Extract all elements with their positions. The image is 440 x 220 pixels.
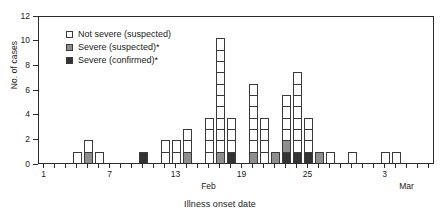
x-axis-title: Illness onset date [0, 199, 440, 209]
x-tick-label: 1 [31, 170, 57, 179]
legend-item-suspected: Severe (suspected)* [66, 41, 171, 54]
case-bar [205, 118, 214, 163]
x-axis-month-label: Feb [192, 182, 226, 191]
case-bar [271, 152, 280, 163]
x-tick-mark [43, 164, 44, 168]
case-cell-confirmed [304, 152, 313, 163]
case-cell-confirmed [282, 152, 291, 163]
x-tick-mark [351, 164, 352, 168]
x-tick-label: 7 [97, 170, 123, 179]
case-cell-suspected [216, 152, 225, 163]
case-bar [161, 140, 170, 163]
x-tick-mark [318, 164, 319, 168]
case-bar [326, 152, 335, 163]
case-cell-notsevere [161, 152, 170, 163]
y-tick-label: 2 [8, 135, 30, 144]
case-bar [392, 152, 401, 163]
x-tick-mark [417, 164, 418, 168]
x-tick-mark [164, 164, 165, 168]
case-bar [216, 38, 225, 163]
case-bar [315, 152, 324, 163]
case-cell-notsevere [205, 152, 214, 163]
x-tick-mark [340, 164, 341, 168]
case-bar [84, 140, 93, 163]
x-tick-mark [76, 164, 77, 168]
x-tick-mark [131, 164, 132, 168]
legend-label: Severe (suspected)* [78, 41, 160, 54]
case-cell-suspected [183, 152, 192, 163]
legend-label: Severe (confirmed)* [78, 54, 158, 67]
epidemic-curve-figure: No. of cases Illness onset date 02468101… [0, 0, 440, 220]
x-axis-month-label: Mar [390, 182, 424, 191]
case-cell-suspected [315, 152, 324, 163]
case-cell-confirmed [293, 152, 302, 163]
x-tick-mark [274, 164, 275, 168]
y-tick-label: 6 [8, 86, 30, 95]
x-tick-mark [208, 164, 209, 168]
legend: Not severe (suspected)Severe (suspected)… [66, 28, 171, 67]
x-tick-mark [186, 164, 187, 168]
case-cell-notsevere [95, 152, 104, 163]
x-tick-mark [197, 164, 198, 168]
x-tick-label: 19 [229, 170, 255, 179]
x-tick-mark [362, 164, 363, 168]
case-cell-suspected [271, 152, 280, 163]
x-tick-mark [109, 164, 110, 168]
y-tick-label: 12 [8, 12, 30, 21]
case-cell-notsevere [381, 152, 390, 163]
x-tick-mark [120, 164, 121, 168]
case-bar [249, 84, 258, 163]
x-tick-mark [219, 164, 220, 168]
case-cell-suspected [249, 152, 258, 163]
legend-swatch-suspected-icon [66, 44, 73, 51]
case-cell-confirmed [139, 152, 148, 163]
case-cell-notsevere [348, 152, 357, 163]
x-tick-mark [153, 164, 154, 168]
case-bar [381, 152, 390, 163]
case-cell-notsevere [260, 152, 269, 163]
x-tick-mark [241, 164, 242, 168]
legend-swatch-notsevere-icon [66, 31, 73, 38]
x-tick-mark [54, 164, 55, 168]
x-tick-mark [252, 164, 253, 168]
x-tick-mark [373, 164, 374, 168]
x-tick-mark [285, 164, 286, 168]
x-tick-label: 13 [163, 170, 189, 179]
case-cell-suspected [84, 152, 93, 163]
legend-item-notsevere: Not severe (suspected) [66, 28, 171, 41]
x-tick-mark [296, 164, 297, 168]
legend-swatch-confirmed-icon [66, 57, 73, 64]
x-tick-label: 25 [295, 170, 321, 179]
x-tick-label: 3 [372, 170, 398, 179]
case-cell-notsevere [73, 152, 82, 163]
case-bar [227, 118, 236, 163]
case-cell-notsevere [392, 152, 401, 163]
y-tick-label: 0 [8, 160, 30, 169]
case-bar [73, 152, 82, 163]
case-cell-notsevere [172, 152, 181, 163]
y-tick-label: 8 [8, 61, 30, 70]
x-tick-mark [175, 164, 176, 168]
y-tick-label: 4 [8, 110, 30, 119]
x-tick-mark [406, 164, 407, 168]
case-bar [183, 129, 192, 163]
case-bar [348, 152, 357, 163]
x-tick-mark [87, 164, 88, 168]
case-bar [172, 140, 181, 163]
case-cell-notsevere [326, 152, 335, 163]
case-bar [95, 152, 104, 163]
case-bar [293, 72, 302, 163]
case-cell-confirmed [227, 152, 236, 163]
x-tick-mark [395, 164, 396, 168]
x-tick-mark [263, 164, 264, 168]
case-bar [282, 95, 291, 163]
x-tick-mark [329, 164, 330, 168]
x-tick-mark [428, 164, 429, 168]
case-bar [139, 152, 148, 163]
x-tick-mark [384, 164, 385, 168]
x-tick-mark [65, 164, 66, 168]
x-tick-mark [98, 164, 99, 168]
y-tick-label: 10 [8, 36, 30, 45]
x-tick-mark [307, 164, 308, 168]
x-tick-mark [142, 164, 143, 168]
